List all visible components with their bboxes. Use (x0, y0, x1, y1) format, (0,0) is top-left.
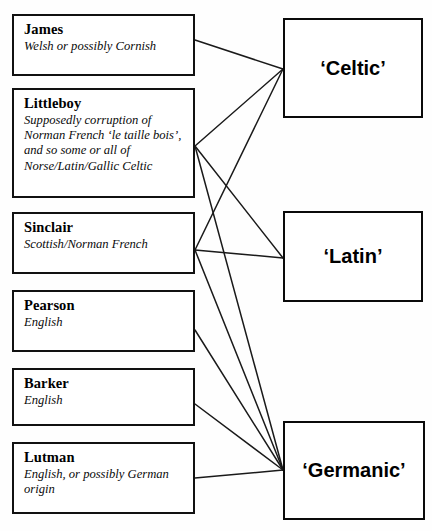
surname-box-barker[interactable]: BarkerEnglish (12, 368, 195, 426)
surname-title-barker: Barker (24, 375, 193, 392)
surname-box-sinclair[interactable]: SinclairScottish/Norman French (12, 212, 195, 274)
surname-description-james: Welsh or possibly Cornish (24, 39, 193, 54)
surname-title-james: James (24, 21, 193, 38)
surname-title-sinclair: Sinclair (24, 219, 193, 236)
surname-box-lutman[interactable]: LutmanEnglish, or possibly German origin (12, 442, 195, 514)
surname-title-pearson: Pearson (24, 297, 193, 314)
connection-line-pearson-to-germanic (195, 330, 283, 470)
surname-description-barker: English (24, 393, 193, 408)
connection-line-james-to-celtic (195, 40, 283, 69)
surname-box-pearson[interactable]: PearsonEnglish (12, 290, 195, 352)
connection-line-lutman-to-germanic (195, 470, 283, 478)
connection-line-littleboy-to-celtic (195, 69, 283, 146)
connection-line-littleboy-to-latin (195, 146, 283, 258)
category-box-germanic[interactable]: ‘Germanic’ (283, 421, 425, 520)
surname-description-sinclair: Scottish/Norman French (24, 237, 193, 252)
category-label-celtic: ‘Celtic’ (320, 57, 386, 80)
surname-box-james[interactable]: JamesWelsh or possibly Cornish (12, 14, 195, 76)
connection-line-sinclair-to-latin (195, 250, 283, 258)
category-box-latin[interactable]: ‘Latin’ (283, 211, 423, 302)
surname-description-pearson: English (24, 315, 193, 330)
category-label-latin: ‘Latin’ (324, 245, 383, 268)
connection-line-barker-to-germanic (195, 404, 283, 470)
surname-title-littleboy: Littleboy (24, 95, 193, 112)
surname-description-lutman: English, or possibly German origin (24, 467, 193, 498)
connection-line-sinclair-to-celtic (195, 69, 283, 250)
diagram-canvas: JamesWelsh or possibly CornishLittleboyS… (0, 0, 432, 531)
category-box-celtic[interactable]: ‘Celtic’ (283, 18, 423, 118)
connection-line-littleboy-to-germanic (195, 146, 283, 470)
category-label-germanic: ‘Germanic’ (302, 459, 405, 482)
surname-title-lutman: Lutman (24, 449, 193, 466)
connection-line-sinclair-to-germanic (195, 250, 283, 470)
surname-box-littleboy[interactable]: LittleboySupposedly corruption of Norman… (12, 88, 195, 198)
surname-description-littleboy: Supposedly corruption of Norman French ‘… (24, 113, 193, 174)
